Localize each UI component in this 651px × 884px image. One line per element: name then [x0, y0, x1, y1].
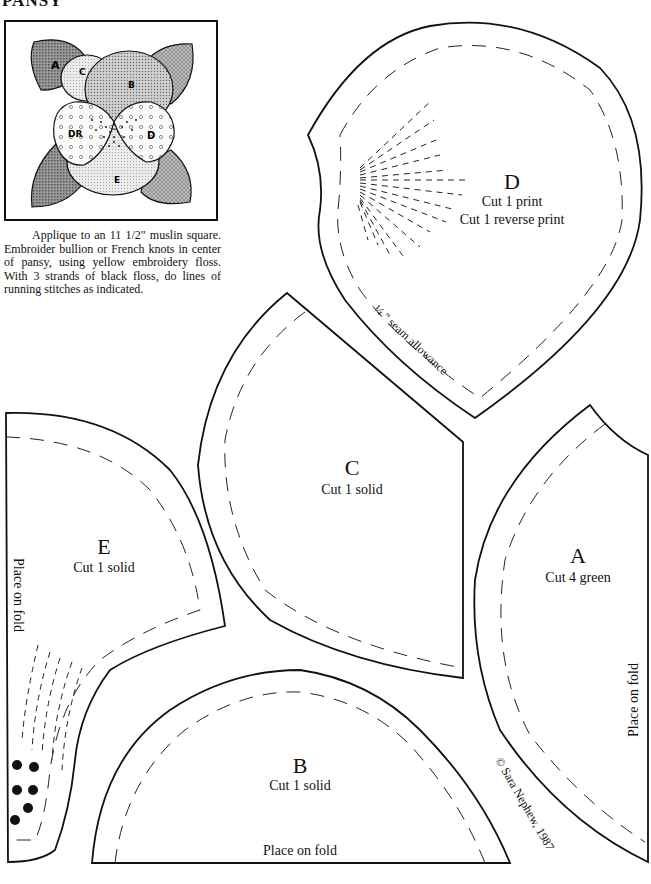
piece-e-cut-instruction: Cut 1 solid	[73, 560, 134, 575]
piece-c-cut-instruction: Cut 1 solid	[321, 482, 382, 497]
piece-e-fold-note: Place on fold	[11, 558, 26, 632]
piece-b-cut-instruction: Cut 1 solid	[269, 778, 330, 793]
piece-a-cut-instruction: Cut 4 green	[545, 570, 610, 585]
piece-a-fold-note: Place on fold	[626, 663, 641, 737]
piece-d-letter: D	[504, 169, 520, 194]
piece-b: B Cut 1 solid Place on fold	[92, 670, 510, 863]
piece-b-letter: B	[293, 753, 308, 778]
piece-a: A Cut 4 green Place on fold	[474, 405, 648, 862]
piece-c-letter: C	[345, 455, 360, 480]
piece-e-letter: E	[97, 534, 110, 559]
piece-a-letter: A	[570, 543, 586, 568]
piece-b-fold-note: Place on fold	[263, 843, 337, 858]
pattern-pieces: D Cut 1 print Cut 1 reverse print ¼ " se…	[0, 0, 651, 884]
piece-d-reverse-instruction: Cut 1 reverse print	[460, 212, 565, 227]
piece-d-cut-instruction: Cut 1 print	[482, 194, 543, 209]
